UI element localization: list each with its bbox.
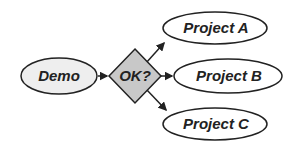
flowchart-diagram: Demo OK? Project A Project B Project C	[0, 0, 296, 148]
node-project-b: Project B	[174, 59, 282, 93]
node-project-a: Project A	[163, 12, 267, 44]
node-demo-label: Demo	[38, 67, 80, 84]
edge-ok-project-a	[146, 43, 164, 63]
node-demo: Demo	[21, 58, 97, 94]
node-ok-label: OK?	[119, 67, 151, 84]
node-project-a-label: Project A	[183, 19, 248, 36]
node-ok-decision: OK?	[109, 49, 161, 103]
node-project-c: Project C	[163, 108, 267, 140]
edge-ok-project-c	[146, 89, 166, 110]
node-project-b-label: Project B	[196, 67, 262, 84]
node-project-c-label: Project C	[183, 115, 250, 132]
